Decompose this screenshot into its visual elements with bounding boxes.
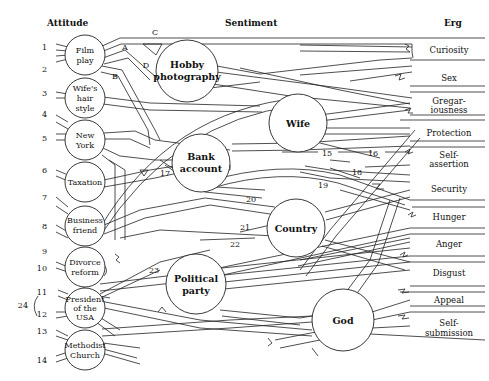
svg-text:Bank: Bank (187, 151, 215, 162)
svg-text:14: 14 (37, 356, 47, 365)
erg-hunger: Hunger (433, 212, 467, 222)
svg-text:Country: Country (275, 223, 318, 234)
path-label-22: 22 (230, 240, 240, 249)
attitude-new-york: New York (65, 120, 105, 160)
svg-text:13: 13 (37, 327, 47, 336)
header-sentiment: Sentiment (225, 18, 278, 28)
svg-text:6: 6 (42, 166, 47, 175)
svg-text:2: 2 (42, 65, 47, 74)
path-label-17: 17 (160, 169, 170, 178)
svg-text:7: 7 (42, 193, 47, 202)
attitude-film-play: Film play (65, 35, 105, 75)
svg-text:photography: photography (153, 71, 221, 82)
attitude-divorce-reform: Divorce reform (65, 247, 105, 287)
erg-protection: Protection (427, 128, 472, 138)
sentiment-wife: Wife (269, 94, 327, 152)
svg-text:friend: friend (73, 226, 97, 235)
input-numbers: 1 2 3 4 5 6 7 8 9 10 11 12 13 14 24 (18, 43, 47, 365)
dynamic-lattice-diagram: Attitude Sentiment Erg (0, 0, 489, 381)
svg-text:hair: hair (77, 94, 93, 103)
svg-text:account: account (180, 163, 223, 174)
erg-self-submission-1: Self- (439, 318, 458, 328)
path-label-21: 21 (240, 223, 250, 232)
attitude-taxation: Taxation (65, 162, 105, 202)
svg-text:Film: Film (76, 46, 95, 55)
svg-text:Divorce: Divorce (69, 258, 101, 267)
svg-text:8: 8 (42, 222, 47, 231)
path-label-20: 20 (246, 195, 256, 204)
path-label-d: D (143, 61, 149, 70)
path-label-a: A (121, 43, 128, 52)
svg-text:5: 5 (42, 134, 47, 143)
erg-gregariousness-2: iousness (431, 105, 468, 115)
sentiment-political-party: Political party (166, 254, 226, 314)
svg-text:Business: Business (67, 216, 103, 225)
path-label-b: B (112, 72, 118, 81)
svg-text:President: President (66, 295, 106, 304)
path-label-23: 23 (149, 266, 159, 275)
svg-text:of the: of the (73, 304, 97, 313)
erg-disgust: Disgust (433, 268, 466, 278)
erg-labels: Curiosity Sex Gregar- iousness Protectio… (425, 45, 474, 338)
path-label-19: 19 (318, 181, 328, 190)
sentiment-hobby-photography: Hobby photography (153, 40, 221, 102)
erg-anger: Anger (435, 239, 463, 249)
svg-text:God: God (332, 315, 353, 326)
svg-text:Hobby: Hobby (170, 59, 205, 70)
svg-text:style: style (75, 104, 94, 113)
attitude-business-friend: Business friend (65, 206, 105, 246)
attitude-methodist-church: Methodist Church (64, 330, 106, 370)
svg-text:10: 10 (37, 264, 47, 273)
attitude-president-usa: President of the USA (65, 288, 105, 328)
erg-self-submission-2: submission (425, 328, 474, 338)
svg-text:1: 1 (42, 43, 47, 52)
svg-text:11: 11 (37, 288, 47, 297)
sentiment-bank-account: Bank account (172, 134, 230, 192)
attitude-wifes-hair-style: Wife's hair style (65, 78, 105, 118)
svg-text:4: 4 (42, 110, 47, 119)
path-label-c: C (152, 28, 158, 37)
header-erg: Erg (444, 18, 463, 28)
svg-text:Wife's: Wife's (73, 84, 98, 93)
svg-text:play: play (77, 56, 94, 65)
sentiment-country: Country (267, 199, 325, 257)
sentiment-nodes: Hobby photography Wife Bank account Coun… (153, 40, 374, 351)
erg-self-assertion-2: assertion (429, 159, 469, 169)
svg-text:New: New (76, 131, 95, 140)
svg-text:reform: reform (71, 268, 99, 277)
svg-text:Political: Political (174, 273, 218, 284)
svg-text:Taxation: Taxation (68, 178, 103, 187)
bracket-label: 24 (18, 301, 28, 310)
svg-text:Church: Church (70, 351, 100, 360)
sentiment-god: God (312, 289, 374, 351)
svg-text:12: 12 (37, 310, 47, 319)
header-attitude: Attitude (46, 18, 89, 28)
svg-text:9: 9 (42, 247, 47, 256)
erg-sex: Sex (441, 73, 457, 83)
path-label-15: 15 (322, 149, 332, 158)
svg-text:Wife: Wife (285, 118, 310, 129)
erg-security: Security (431, 184, 467, 194)
attitude-nodes: Film play Wife's hair style New York Tax… (64, 35, 106, 370)
erg-curiosity: Curiosity (429, 45, 468, 55)
svg-text:Methodist: Methodist (64, 341, 106, 350)
erg-appeal: Appeal (433, 295, 464, 305)
svg-text:York: York (75, 141, 94, 150)
connection-pipes (78, 38, 485, 364)
svg-text:3: 3 (42, 89, 47, 98)
path-label-16: 16 (368, 149, 378, 158)
svg-text:party: party (182, 285, 210, 296)
svg-text:USA: USA (76, 313, 94, 322)
path-label-18: 18 (352, 168, 362, 177)
